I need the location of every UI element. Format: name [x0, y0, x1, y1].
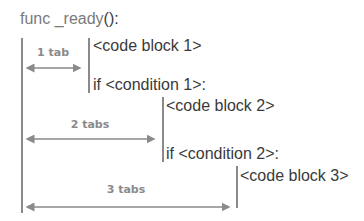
indent-arrows — [0, 0, 364, 221]
